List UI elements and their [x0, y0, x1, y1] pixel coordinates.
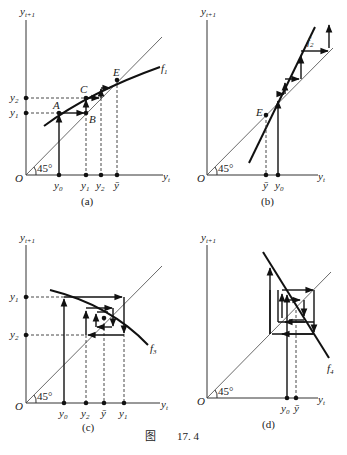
svg-text:y2: y2: [95, 179, 105, 193]
panel-d: yt+1 yt O 45° f4 y0 ȳ (d): [197, 231, 334, 431]
angle-arc: [34, 167, 36, 175]
svg-text:y0: y0: [274, 179, 284, 193]
figure-17-4: yt+1 yt O 45° f1 A B C E y2 y1 y0 y1 y2 …: [0, 0, 347, 455]
svg-text:O: O: [197, 172, 205, 184]
svg-text:y1: y1: [118, 407, 127, 421]
svg-text:yt+1: yt+1: [200, 231, 216, 245]
svg-text:ȳ: ȳ: [100, 407, 107, 419]
svg-text:yt+1: yt+1: [19, 5, 35, 19]
svg-text:O: O: [197, 395, 205, 407]
svg-text:ȳ: ȳ: [293, 402, 300, 414]
svg-text:y1: y1: [80, 179, 89, 193]
svg-text:y0: y0: [280, 402, 290, 416]
svg-text:(c): (c): [82, 421, 95, 434]
svg-text:f1: f1: [161, 62, 168, 76]
45-degree-line: [207, 272, 331, 398]
45-degree-line: [26, 37, 162, 175]
svg-text:A: A: [52, 99, 60, 111]
svg-text:yt: yt: [317, 393, 326, 407]
point-C: [84, 96, 89, 101]
svg-text:ȳ: ȳ: [113, 179, 120, 191]
svg-text:y2: y2: [80, 407, 90, 421]
svg-text:yt: yt: [317, 170, 326, 184]
svg-text:45°: 45°: [37, 390, 52, 402]
svg-text:(d): (d): [262, 418, 275, 431]
point-E: [264, 113, 269, 118]
curve-f1: [44, 67, 160, 126]
svg-text:y1: y1: [9, 290, 18, 304]
svg-text:y0: y0: [53, 179, 63, 193]
point-B: [84, 111, 89, 116]
svg-text:(b): (b): [261, 195, 274, 208]
svg-text:E: E: [255, 106, 263, 118]
figure-caption: 图 17. 4: [145, 430, 200, 443]
svg-text:O: O: [15, 172, 23, 184]
svg-text:y2: y2: [9, 328, 19, 342]
svg-text:ȳ: ȳ: [262, 179, 269, 191]
point-E: [115, 78, 120, 83]
svg-text:B: B: [89, 113, 96, 125]
curve-f2: [249, 27, 315, 163]
panel-caption: (a): [81, 195, 94, 208]
svg-text:yt+1: yt+1: [19, 231, 35, 245]
svg-text:17. 4: 17. 4: [177, 430, 200, 442]
equilibrium-point: [102, 316, 107, 321]
svg-text:f3: f3: [150, 342, 157, 356]
svg-text:y0: y0: [58, 407, 68, 421]
svg-text:E: E: [112, 66, 120, 78]
point-A: [57, 111, 62, 116]
panel-c: yt+1 yt O 45° f3 y1 y2 y0 y2 ȳ y1 (c): [9, 231, 169, 434]
svg-text:y2: y2: [9, 91, 19, 105]
panel-a: yt+1 yt O 45° f1 A B C E y2 y1 y0 y1 y2 …: [9, 5, 171, 208]
svg-text:45°: 45°: [218, 162, 233, 174]
45-degree-line: [207, 48, 333, 175]
svg-text:45°: 45°: [37, 162, 52, 174]
svg-text:O: O: [15, 400, 23, 412]
svg-text:yt: yt: [162, 170, 171, 184]
panel-b: yt+1 yt O 45° f2 E ȳ y0 (b): [197, 5, 333, 208]
svg-text:y1: y1: [9, 106, 18, 120]
svg-text:图: 图: [145, 430, 156, 443]
svg-text:yt+1: yt+1: [200, 5, 216, 19]
svg-text:f4: f4: [327, 362, 334, 376]
svg-text:C: C: [80, 83, 88, 95]
svg-text:45°: 45°: [218, 385, 233, 397]
svg-text:yt: yt: [160, 398, 169, 412]
